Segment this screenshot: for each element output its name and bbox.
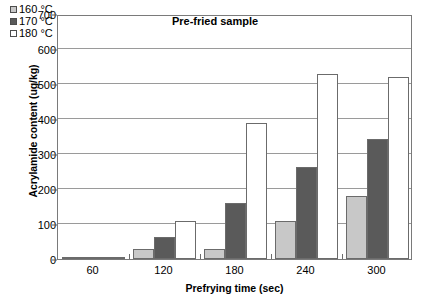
y-tick-label: 400 xyxy=(16,115,56,126)
chart-title: Pre-fried sample xyxy=(0,15,430,27)
acrylamide-bar-chart: Acrylamide content (ug/kg) 0100200300400… xyxy=(0,0,430,303)
category-separator xyxy=(129,254,130,259)
category-separator xyxy=(342,254,343,259)
bar-group xyxy=(58,16,129,259)
x-tick-label: 120 xyxy=(129,264,199,276)
bar[interactable] xyxy=(246,123,267,260)
bar[interactable] xyxy=(317,74,338,260)
bar[interactable] xyxy=(275,221,296,260)
bar[interactable] xyxy=(175,221,196,259)
bar[interactable] xyxy=(388,77,409,259)
y-tick-label: 500 xyxy=(16,80,56,91)
bar[interactable] xyxy=(83,257,104,259)
legend-item-label: 160 °C xyxy=(19,4,53,15)
legend-item-label: 180 °C xyxy=(19,28,53,39)
legend-item[interactable]: 160 °C xyxy=(10,4,53,15)
y-tick-label: 600 xyxy=(16,45,56,56)
y-tick-label: 200 xyxy=(16,185,56,196)
legend-item[interactable]: 180 °C xyxy=(10,28,53,39)
bars-layer xyxy=(58,16,411,259)
y-tick-mark xyxy=(52,85,57,86)
legend-swatch-icon xyxy=(10,30,17,37)
bar[interactable] xyxy=(296,167,317,259)
bar-group xyxy=(342,16,413,259)
y-tick-label: 100 xyxy=(16,220,56,231)
plot-area xyxy=(57,15,412,260)
x-tick-label: 60 xyxy=(58,264,128,276)
bar[interactable] xyxy=(204,249,225,260)
y-tick-mark xyxy=(52,260,57,261)
y-tick-label: 300 xyxy=(16,150,56,161)
x-tick-label: 300 xyxy=(342,264,412,276)
bar-group xyxy=(271,16,342,259)
y-axis-title: Acrylamide content (ug/kg) xyxy=(27,36,39,226)
bar[interactable] xyxy=(104,257,125,259)
y-tick-mark xyxy=(52,50,57,51)
legend-swatch-icon xyxy=(10,6,17,13)
category-separator xyxy=(200,254,201,259)
bar[interactable] xyxy=(154,237,175,259)
bar[interactable] xyxy=(225,203,246,259)
bar[interactable] xyxy=(346,196,367,259)
y-tick-label: 0 xyxy=(16,255,56,266)
x-tick-label: 180 xyxy=(200,264,270,276)
bar[interactable] xyxy=(133,249,154,260)
bar-group xyxy=(200,16,271,259)
y-tick-mark xyxy=(52,225,57,226)
y-tick-mark xyxy=(52,120,57,121)
bar[interactable] xyxy=(62,257,83,259)
category-separator xyxy=(271,254,272,259)
x-axis-title: Prefrying time (sec) xyxy=(57,282,412,294)
x-tick-label: 240 xyxy=(271,264,341,276)
bar-group xyxy=(129,16,200,259)
bar[interactable] xyxy=(367,139,388,259)
y-tick-mark xyxy=(52,155,57,156)
y-tick-mark xyxy=(52,190,57,191)
